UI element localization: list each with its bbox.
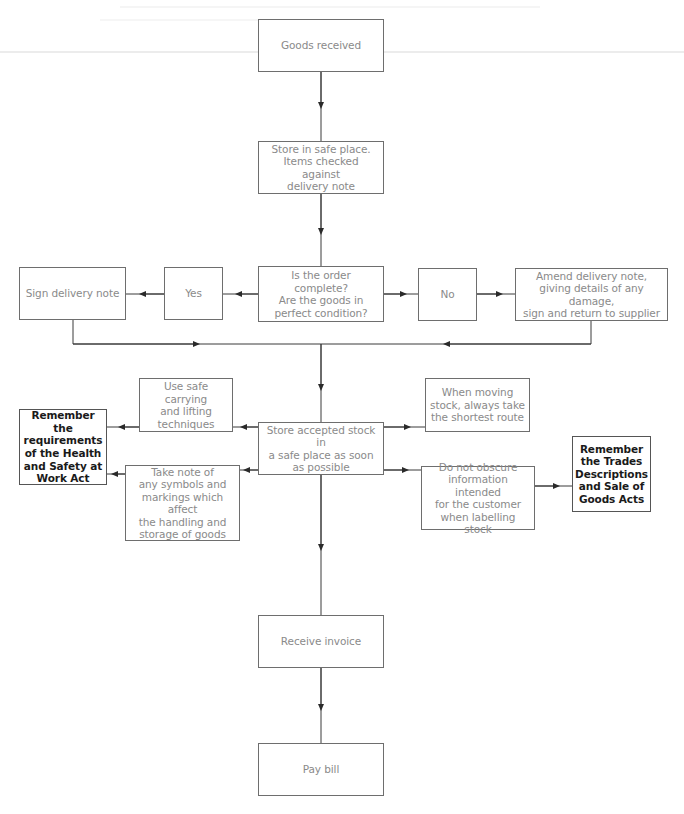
node-no: No bbox=[418, 268, 477, 321]
node-health-safety-act: Remember the requirements of the Health … bbox=[19, 409, 107, 485]
node-label: Store accepted stock in a safe place as … bbox=[263, 424, 379, 474]
node-safe-carrying: Use safe carrying and lifting techniques bbox=[139, 378, 233, 432]
node-label: Pay bill bbox=[303, 763, 339, 776]
node-label: Use safe carrying and lifting techniques bbox=[144, 380, 228, 430]
node-take-note-symbols: Take note of any symbols and markings wh… bbox=[125, 465, 240, 541]
node-sign-delivery-note: Sign delivery note bbox=[19, 267, 126, 320]
node-label: Sign delivery note bbox=[26, 287, 120, 300]
node-label: Store in safe place. Items checked again… bbox=[263, 143, 379, 193]
connector-lines bbox=[0, 0, 684, 814]
node-label: Amend delivery note, giving details of a… bbox=[520, 270, 663, 320]
node-decision-order-complete: Is the order complete? Are the goods in … bbox=[258, 266, 384, 322]
node-label: Remember the Trades Descriptions and Sal… bbox=[575, 443, 648, 506]
node-label: No bbox=[440, 288, 454, 301]
node-do-not-obscure: Do not obscure information intended for … bbox=[421, 466, 535, 530]
node-label: Remember the requirements of the Health … bbox=[24, 409, 103, 485]
node-pay-bill: Pay bill bbox=[258, 743, 384, 796]
node-label: Goods received bbox=[281, 39, 361, 52]
node-store-accepted-stock: Store accepted stock in a safe place as … bbox=[258, 422, 384, 475]
node-receive-invoice: Receive invoice bbox=[258, 615, 384, 668]
node-yes: Yes bbox=[164, 267, 223, 320]
node-label: Take note of any symbols and markings wh… bbox=[130, 466, 235, 541]
node-shortest-route: When moving stock, always take the short… bbox=[425, 378, 530, 432]
node-amend-delivery-note: Amend delivery note, giving details of a… bbox=[515, 268, 668, 321]
node-label: Receive invoice bbox=[281, 635, 361, 648]
flowchart-canvas: Goods received Store in safe place. Item… bbox=[0, 0, 684, 814]
node-label: When moving stock, always take the short… bbox=[430, 386, 525, 424]
node-label: Yes bbox=[185, 287, 202, 300]
node-label: Do not obscure information intended for … bbox=[426, 461, 530, 536]
node-trades-descriptions-act: Remember the Trades Descriptions and Sal… bbox=[572, 436, 651, 512]
node-label: Is the order complete? Are the goods in … bbox=[263, 269, 379, 319]
node-goods-received: Goods received bbox=[258, 19, 384, 72]
node-store-safe-place: Store in safe place. Items checked again… bbox=[258, 141, 384, 194]
